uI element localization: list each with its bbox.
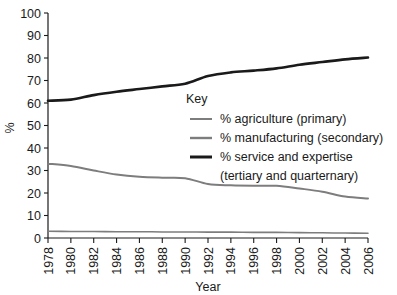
x-tick-label: 1992 — [202, 247, 216, 275]
x-tick-label: 2004 — [339, 247, 353, 275]
x-tick-label: 1982 — [87, 247, 101, 275]
y-tick-label: 10 — [27, 209, 41, 223]
x-tick-label: 1980 — [64, 247, 78, 275]
y-tick-label: 70 — [27, 74, 41, 88]
x-tick-label: 1990 — [179, 247, 193, 275]
x-tick-label: 1984 — [110, 247, 124, 275]
y-tick-label: 20 — [27, 187, 41, 201]
chart-svg: 0102030405060708090100 19781980198219841… — [0, 0, 397, 295]
legend-label: % manufacturing (secondary) — [220, 131, 383, 145]
y-tick-label: 60 — [27, 97, 41, 111]
x-axis: 1978198019821984198619881990199219941996… — [42, 238, 376, 275]
x-tick-label: 1978 — [42, 247, 56, 275]
legend-label-line2: (tertiary and quarternary) — [220, 169, 358, 183]
x-tick-label: 2002 — [316, 247, 330, 275]
x-tick-label: 2000 — [293, 247, 307, 275]
x-tick-label: 1998 — [270, 247, 284, 275]
x-tick-label: 1986 — [133, 247, 147, 275]
y-tick-label: 40 — [27, 142, 41, 156]
x-tick-label: 1996 — [247, 247, 261, 275]
y-tick-label: 100 — [20, 7, 41, 21]
x-tick-label: 1988 — [156, 247, 170, 275]
x-tick-label: 2006 — [362, 247, 376, 275]
y-tick-label: 30 — [27, 164, 41, 178]
y-tick-label: 0 — [34, 232, 41, 246]
y-tick-label: 50 — [27, 119, 41, 133]
legend-label: % agriculture (primary) — [220, 112, 346, 126]
y-axis: 0102030405060708090100 — [20, 7, 48, 246]
chart-legend: Key% agriculture (primary)% manufacturin… — [186, 92, 383, 183]
series-line — [48, 58, 368, 101]
legend-label: % service and expertise — [220, 150, 353, 164]
y-axis-title: % — [3, 122, 17, 133]
series-lines — [48, 58, 368, 234]
legend-title: Key — [186, 92, 208, 106]
y-tick-label: 90 — [27, 29, 41, 43]
x-axis-title: Year — [195, 280, 220, 294]
x-tick-label: 1994 — [224, 247, 238, 275]
line-chart: 0102030405060708090100 19781980198219841… — [0, 0, 397, 295]
series-line — [48, 231, 368, 233]
y-tick-label: 80 — [27, 52, 41, 66]
